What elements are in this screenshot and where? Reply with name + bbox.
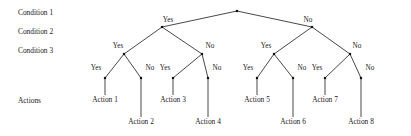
edge-label: No	[146, 65, 155, 72]
tree-edge	[325, 54, 350, 78]
action-label: Action 6	[280, 118, 306, 125]
tree-edge	[124, 27, 162, 54]
action-label: Action 8	[348, 118, 374, 125]
tree-node-marker	[360, 77, 362, 79]
tree-edge	[312, 27, 350, 54]
tree-edge	[350, 54, 361, 78]
edge-group	[105, 11, 361, 78]
tree-edge	[124, 54, 141, 78]
tree-edge	[162, 11, 237, 27]
tree-node-marker	[273, 53, 275, 55]
decision-tree-diagram: Condition 1Condition 2Condition 3Actions…	[0, 0, 411, 136]
row-label: Actions	[18, 97, 41, 104]
edge-label: Yes	[113, 43, 123, 50]
tree-node-marker	[172, 77, 174, 79]
tree-edge	[105, 54, 124, 78]
edge-label: Yes	[163, 17, 173, 24]
tree-node-marker	[123, 53, 125, 55]
tree-node-marker	[201, 53, 203, 55]
tree-node-marker	[311, 26, 313, 28]
edge-label: Yes	[91, 65, 101, 72]
edge-label: Yes	[243, 65, 253, 72]
tree-node-marker	[349, 53, 351, 55]
edge-label: Yes	[261, 43, 271, 50]
action-label: Action 5	[244, 96, 270, 103]
edge-label: No	[353, 43, 362, 50]
tree-node-marker	[207, 77, 209, 79]
row-label: Condition 1	[18, 9, 53, 16]
action-label: Action 2	[128, 118, 154, 125]
row-label: Condition 3	[18, 47, 53, 54]
tree-edge	[237, 11, 312, 27]
tree-node-marker	[324, 77, 326, 79]
action-label: Action 7	[312, 96, 338, 103]
tree-graphics	[0, 0, 411, 136]
tree-edge	[274, 27, 312, 54]
tree-node-marker	[256, 77, 258, 79]
tree-node-marker	[292, 77, 294, 79]
node-group	[104, 10, 362, 79]
action-label: Action 1	[92, 96, 118, 103]
edge-label: No	[213, 65, 222, 72]
action-label: Action 3	[160, 96, 186, 103]
tree-node-marker	[140, 77, 142, 79]
tree-edge	[257, 54, 274, 78]
row-label: Condition 2	[18, 28, 53, 35]
edge-label: No	[304, 17, 313, 24]
tree-node-marker	[161, 26, 163, 28]
tree-node-marker	[236, 10, 238, 12]
edge-label: Yes	[160, 65, 170, 72]
tree-edge	[202, 54, 208, 78]
action-label: Action 4	[195, 118, 221, 125]
tree-edge	[162, 27, 202, 54]
edge-label: No	[206, 43, 215, 50]
tree-node-marker	[104, 77, 106, 79]
edge-label: Yes	[312, 65, 322, 72]
tree-edge	[173, 54, 202, 78]
tree-edge	[274, 54, 293, 78]
edge-label: No	[366, 65, 375, 72]
edge-label: No	[298, 65, 307, 72]
